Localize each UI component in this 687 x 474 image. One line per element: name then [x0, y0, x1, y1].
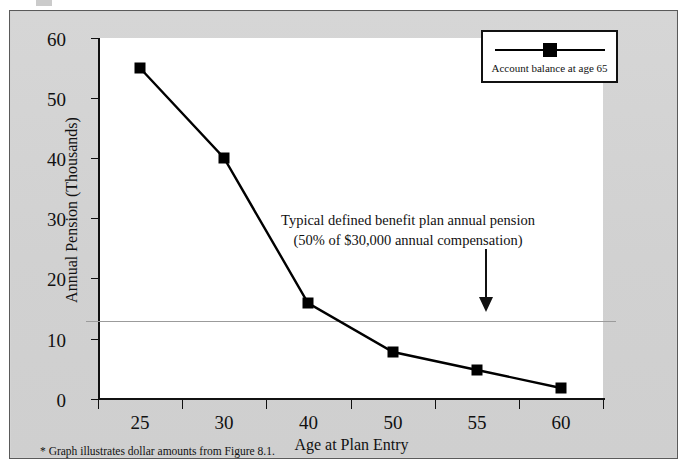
x-tick-label-60: 60 [519, 413, 603, 432]
y-tick-20 [91, 278, 98, 279]
scan-artifact [0, 0, 687, 9]
x-tick-label-40: 40 [266, 413, 351, 432]
data-point-30 [219, 153, 230, 164]
y-tick-50 [91, 98, 98, 99]
data-point-60 [556, 383, 567, 394]
x-tick-b5 [519, 400, 520, 409]
scan-speck [36, 0, 52, 6]
x-tick-b4 [435, 400, 436, 409]
footnote: * Graph illustrates dollar amounts from … [40, 445, 275, 457]
data-point-50 [388, 347, 399, 358]
chart-legend: Account balance at age 65 [481, 30, 618, 83]
x-tick-b3 [351, 400, 352, 409]
x-tick-label-25: 25 [98, 413, 182, 432]
y-axis-line [98, 38, 100, 400]
x-tick-label-50: 50 [351, 413, 435, 432]
annotation-line-1: Typical defined benefit plan annual pens… [248, 211, 568, 231]
annotation-text: Typical defined benefit plan annual pens… [248, 211, 568, 250]
y-tick-0 [91, 399, 98, 400]
x-tick-b1 [182, 400, 183, 409]
y-tick-10 [91, 339, 98, 340]
data-point-40 [303, 298, 314, 309]
x-tick-b0 [98, 400, 99, 409]
legend-square-icon [543, 43, 557, 57]
arrow-head [479, 297, 493, 312]
y-tick-label-60: 60 [47, 30, 66, 49]
y-tick-30 [91, 218, 98, 219]
x-tick-label-55: 55 [435, 413, 519, 432]
y-tick-label-0: 0 [57, 391, 67, 410]
figure-panel: 0 10 20 30 40 50 60 Annual Pension (Thou… [9, 10, 678, 459]
y-axis-title: Annual Pension (Thousands) [63, 60, 81, 360]
x-tick-label-30: 30 [182, 413, 266, 432]
arrow-shaft [485, 249, 487, 301]
down-arrow-icon [479, 249, 493, 313]
annotation-line-2: (50% of $30,000 annual compensation) [248, 231, 568, 251]
x-tick-b6 [603, 400, 604, 409]
legend-label: Account balance at age 65 [483, 62, 616, 74]
data-point-55 [472, 365, 483, 376]
y-tick-60 [91, 38, 98, 39]
reference-line [86, 321, 616, 322]
legend-marker-icon [495, 42, 605, 58]
x-tick-b2 [266, 400, 267, 409]
data-point-25 [135, 63, 146, 74]
y-tick-40 [91, 158, 98, 159]
